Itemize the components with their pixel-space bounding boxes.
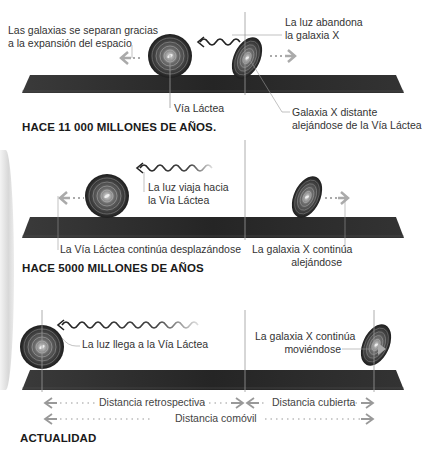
milky-way-galaxy-icon	[85, 174, 129, 218]
light-travels-label: La luz viaja hacia la Vía Láctea	[148, 181, 229, 207]
comoving-distance-label: Distancia comóvil	[175, 412, 257, 424]
expansion-label: Las galaxias se separan gracias a la exp…	[8, 24, 130, 50]
light-leaves-line1: La luz abandona	[285, 16, 363, 29]
galaxy-x-moving-label: La galaxia X continúa moviéndose	[255, 330, 341, 356]
milky-way-moves-label: La Vía Láctea continúa desplazándose	[60, 243, 241, 256]
galaxy-x-continues-line1: La galaxia X continúa	[252, 243, 342, 256]
lookback-distance-label: Distancia retrospectiva	[99, 396, 205, 408]
light-leaves-label: La luz abandona la galaxia X	[285, 16, 363, 42]
expansion-label-line1: Las galaxias se separan gracias	[8, 24, 130, 37]
galaxy-x-distant-label: Galaxia X distante alejándose de la Vía …	[292, 106, 422, 132]
galaxy-x-line1: Galaxia X distante	[292, 106, 422, 119]
heading-present-day: ACTUALIDAD	[20, 432, 96, 444]
galaxy-x-line2: alejándose de la Vía Láctea	[292, 119, 422, 132]
galaxy-x-continues-label: La galaxia X continúa alejándose	[252, 243, 342, 269]
heading-11000-million-years: HACE 11 000 MILLONES DE AÑOS.	[22, 121, 216, 133]
light-leaves-line2: la galaxia X	[285, 29, 363, 42]
light-travels-line1: La luz viaja hacia	[148, 181, 229, 194]
galaxy-x-moving-line1: La galaxia X continúa	[255, 330, 341, 343]
light-travels-line2: la Vía Láctea	[148, 194, 229, 207]
expansion-label-line2: a la expansión del espacio	[8, 37, 130, 50]
galaxy-x-moving-line2: moviéndose	[255, 343, 341, 356]
covered-distance-label: Distancia cubierta	[272, 396, 355, 408]
light-arrives-label: La luz llega a la Vía Láctea	[82, 338, 208, 351]
heading-5000-million-years: HACE 5000 MILLONES DE AÑOS	[22, 262, 204, 274]
milky-way-label: Vía Láctea	[174, 102, 224, 115]
galaxy-x-continues-line2: alejándose	[252, 256, 342, 269]
